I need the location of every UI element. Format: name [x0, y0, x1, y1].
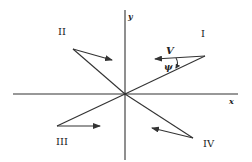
angle-psi-arc: [176, 58, 178, 68]
line-quadrant-IV: [125, 94, 193, 138]
quadrant-III: III: [56, 94, 125, 147]
vector-arrow-IV: [152, 128, 193, 138]
quadrant-label-IV: IV: [203, 138, 215, 149]
y-axis-label: y: [127, 11, 134, 21]
quadrant-label-III: III: [56, 136, 68, 147]
line-quadrant-II: [73, 49, 125, 94]
quadrant-II: II: [58, 26, 125, 94]
vector-label-V: V: [166, 45, 175, 56]
x-axis-label: x: [228, 96, 234, 106]
quadrant-label-I: I: [201, 28, 205, 39]
quadrant-vector-diagram: x y I V ψ II III IV: [0, 0, 252, 162]
quadrant-label-II: II: [58, 26, 66, 37]
quadrant-I: I V ψ: [125, 28, 205, 94]
origin-point: [124, 93, 127, 96]
quadrant-IV: IV: [125, 94, 215, 149]
line-quadrant-III: [57, 94, 125, 126]
angle-label-psi: ψ: [164, 62, 173, 72]
vector-V-arrow: [155, 56, 205, 59]
